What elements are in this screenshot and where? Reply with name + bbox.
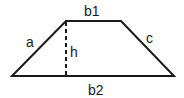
label-a: a [26, 34, 34, 50]
label-b2: b2 [88, 82, 104, 98]
label-c: c [146, 30, 153, 46]
label-b1: b1 [84, 3, 100, 19]
trapezoid-diagram: b1 a h c b2 [0, 0, 184, 98]
label-h: h [70, 44, 78, 60]
